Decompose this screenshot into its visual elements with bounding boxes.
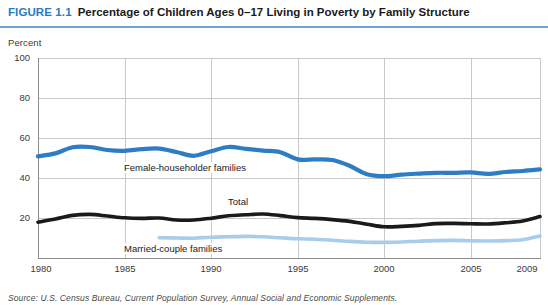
x-tick-label: 1980: [21, 263, 61, 274]
x-tick-label: 1990: [191, 263, 231, 274]
x-tick-label: 1985: [105, 263, 145, 274]
gridline-vertical: [471, 58, 472, 258]
x-tick-label: 1995: [278, 263, 318, 274]
y-axis-line: [38, 58, 39, 259]
x-tick-label: 2000: [364, 263, 404, 274]
y-tick-label: 100: [0, 52, 30, 63]
gridline-horizontal: [38, 98, 540, 99]
chart-lines: [0, 0, 548, 305]
gridline-horizontal: [38, 218, 540, 219]
x-tick-label: 2005: [451, 263, 491, 274]
series-line: [38, 214, 540, 227]
gridline-vertical: [298, 58, 299, 258]
figure-title-row: FIGURE 1.1Percentage of Children Ages 0–…: [8, 5, 544, 19]
series-label-married-couple: Married-couple families: [122, 243, 224, 254]
gridline-horizontal: [38, 178, 540, 179]
figure-page: FIGURE 1.1Percentage of Children Ages 0–…: [0, 0, 548, 305]
gridline-vertical: [384, 58, 385, 258]
gridline-horizontal: [38, 138, 540, 139]
y-tick-label: 20: [0, 212, 30, 223]
gridline-horizontal: [38, 58, 540, 59]
series-label-total: Total: [226, 196, 250, 207]
series-line: [38, 147, 540, 177]
source-note: Source: U.S. Census Bureau, Current Popu…: [8, 293, 397, 303]
series-line: [159, 236, 540, 242]
title-divider: [0, 26, 548, 28]
x-tick-label: 2009: [507, 263, 547, 274]
y-tick-label: 60: [0, 132, 30, 143]
gridline-vertical: [211, 58, 212, 258]
page-title: Percentage of Children Ages 0–17 Living …: [78, 6, 470, 18]
series-label-female-householder: Female-householder families: [122, 162, 248, 173]
x-axis-line: [38, 258, 541, 259]
gridline-vertical: [540, 58, 541, 258]
figure-number: FIGURE 1.1: [8, 6, 72, 18]
y-tick-label: 40: [0, 172, 30, 183]
y-tick-label: 80: [0, 92, 30, 103]
gridline-vertical: [125, 58, 126, 258]
y-axis-caption: Percent: [8, 37, 41, 48]
